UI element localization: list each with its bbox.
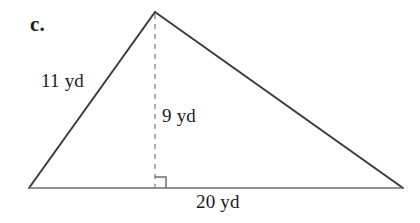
triangle-right-side [155, 12, 403, 188]
geometry-figure: c. 11 yd 9 yd 20 yd [0, 0, 420, 223]
base-length-label: 20 yd [196, 192, 240, 211]
height-length-label: 9 yd [162, 106, 196, 125]
triangle-diagram-svg [0, 0, 420, 223]
left-side-length-label: 11 yd [41, 71, 84, 90]
right-angle-marker-icon [155, 177, 166, 188]
item-letter-label: c. [30, 14, 45, 35]
triangle-left-side [29, 12, 155, 188]
